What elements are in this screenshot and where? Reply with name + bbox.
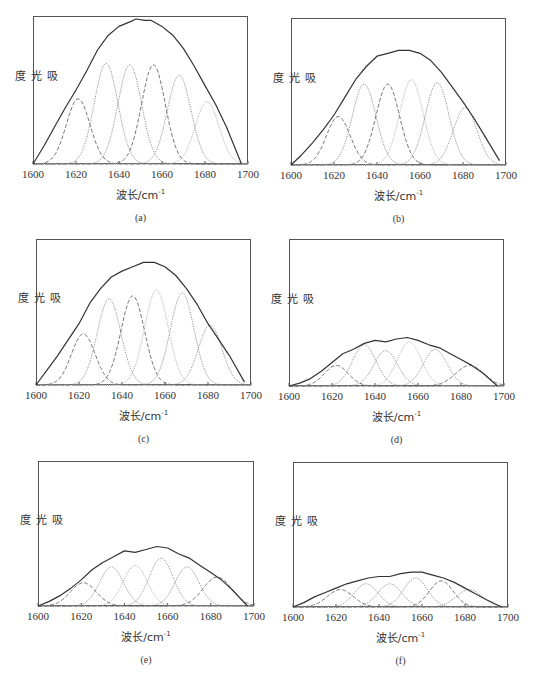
y-axis-label: 吸光度 [271,515,319,527]
component-band [293,584,508,607]
component-band [293,584,508,607]
envelope-curve [293,572,502,607]
x-tick-label: 1600 [282,611,304,623]
x-axis-label-text: 波长/cm [376,632,418,645]
x-tick-label: 1660 [411,611,433,623]
x-tick-label: 1620 [325,611,347,623]
x-tick-label: 1680 [454,611,476,623]
plot-area [0,0,534,681]
x-tick-label: 1640 [368,611,390,623]
x-axis-label-sup: -1 [418,631,425,639]
x-tick-label: 1700 [497,611,519,623]
x-axis-label: 波长/cm-1 [376,629,425,645]
panel-caption: (f) [396,655,406,666]
